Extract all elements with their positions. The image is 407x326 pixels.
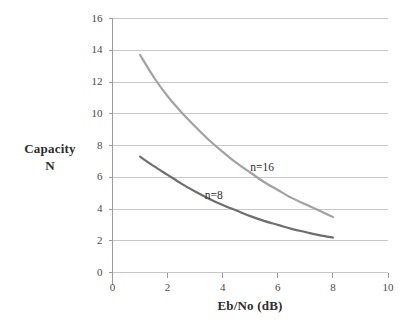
series-line-n8 [140, 157, 333, 238]
y-tick-label-0: 0 [77, 267, 103, 278]
y-tick-label-12: 12 [77, 76, 103, 87]
x-tick-label-8: 8 [320, 282, 346, 293]
series-line-n16 [140, 55, 333, 217]
series-label-n16: n=16 [250, 161, 274, 173]
y-axis-title: Capacity N [4, 140, 96, 174]
x-tick-label-4: 4 [210, 282, 236, 293]
y-tick-label-2: 2 [77, 235, 103, 246]
x-axis-title: Eb/No (dB) [112, 298, 388, 314]
chart-figure: 0246810121416 0246810 n=16n=8 Capacity N… [0, 0, 407, 326]
y-tick-label-4: 4 [77, 203, 103, 214]
y-axis-title-line2: N [4, 157, 96, 174]
y-axis-title-line1: Capacity [4, 140, 96, 157]
y-tick-label-14: 14 [77, 44, 103, 55]
x-tick-label-10: 10 [375, 282, 401, 293]
x-tick-label-6: 6 [265, 282, 291, 293]
tick-marks-group [109, 19, 389, 278]
gridlines-group [113, 19, 389, 273]
y-tick-label-16: 16 [77, 13, 103, 24]
x-tick-label-2: 2 [155, 282, 181, 293]
x-tick-label-0: 0 [100, 282, 126, 293]
series-label-n8: n=8 [205, 189, 223, 201]
y-tick-label-10: 10 [77, 108, 103, 119]
